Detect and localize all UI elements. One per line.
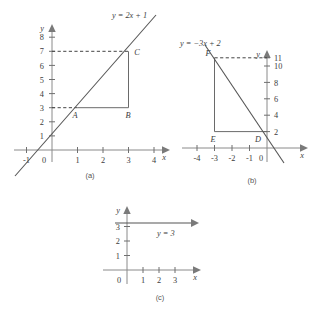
graph-panel-a: x y -1 0 1 2 3 4 1 2 3 bbox=[0, 2, 175, 167]
y-axis-arrow-c bbox=[123, 206, 130, 214]
line-a bbox=[15, 15, 156, 176]
x-tick-label-a-2: 1 bbox=[75, 156, 79, 165]
x-tick-label-a-1: 0 bbox=[42, 156, 46, 165]
x-tick-label-b-4: 0 bbox=[259, 154, 263, 163]
y-tick-label-b-2: 6 bbox=[274, 95, 278, 104]
gradient-triangle-a bbox=[78, 51, 129, 107]
y-tick-label-b-3: 8 bbox=[274, 79, 278, 88]
gradient-triangle-b bbox=[215, 58, 268, 132]
y-axis-label-a: y bbox=[39, 24, 44, 33]
y-tick-label-a-7: 8 bbox=[40, 33, 44, 42]
panel-caption-c: (c) bbox=[140, 293, 180, 302]
point-label-a-B: B bbox=[125, 111, 130, 120]
y-tick-label-b-5: 11 bbox=[274, 54, 282, 63]
y-tick-label-c-0: 1 bbox=[116, 252, 120, 261]
y-axis-label-c: y bbox=[115, 206, 120, 215]
x-tick-label-a-3: 2 bbox=[101, 156, 105, 165]
x-tick-label-c-2: 2 bbox=[157, 276, 161, 285]
y-tick-label-b-4: 10 bbox=[274, 62, 282, 71]
x-tick-label-b-2: -2 bbox=[229, 154, 236, 163]
x-axis-label-c: x bbox=[192, 273, 197, 282]
equation-label-a: y = 2x + 1 bbox=[111, 11, 147, 20]
x-tick-label-b-3: -1 bbox=[246, 154, 253, 163]
point-label-a-C: C bbox=[134, 48, 140, 57]
point-label-a-A: A bbox=[71, 111, 78, 120]
equation-label-c: y = 3 bbox=[156, 229, 175, 238]
graph-panel-c: x y 0 1 2 3 1 2 3 y = 3 bbox=[95, 198, 225, 293]
line-b bbox=[205, 45, 284, 163]
equation-label-b: y = −3x + 2 bbox=[179, 39, 221, 48]
y-axis-arrow-a bbox=[48, 24, 55, 32]
x-axis-label-b: x bbox=[299, 151, 304, 160]
point-label-b-E: E bbox=[209, 135, 215, 144]
x-tick-label-c-1: 1 bbox=[141, 276, 145, 285]
x-tick-label-b-0: -4 bbox=[194, 154, 202, 163]
line-c-arrow bbox=[191, 219, 199, 227]
y-tick-label-a-4: 5 bbox=[40, 76, 44, 85]
y-tick-label-a-3: 4 bbox=[40, 90, 45, 99]
x-tick-label-c-0: 0 bbox=[117, 276, 121, 285]
y-tick-label-a-5: 6 bbox=[40, 62, 44, 71]
y-tick-label-a-1: 2 bbox=[40, 118, 44, 127]
x-tick-label-a-5: 4 bbox=[152, 156, 157, 165]
x-tick-label-b-1: -3 bbox=[211, 154, 218, 163]
x-tick-label-c-3: 3 bbox=[173, 276, 177, 285]
y-tick-label-b-1: 4 bbox=[274, 111, 279, 120]
y-tick-label-a-6: 7 bbox=[40, 47, 44, 56]
panel-caption-a: (a) bbox=[70, 171, 110, 180]
y-tick-label-b-0: 2 bbox=[274, 128, 278, 137]
y-axis-arrow-b bbox=[263, 50, 270, 58]
y-tick-label-a-0: 1 bbox=[40, 132, 44, 141]
y-tick-label-c-2: 3 bbox=[116, 223, 120, 232]
x-axis-label-a: x bbox=[161, 153, 166, 162]
y-ticks-a: 1 2 3 4 5 6 7 8 bbox=[40, 33, 55, 141]
point-label-b-F: F bbox=[204, 49, 211, 58]
y-ticks-c: 1 2 3 bbox=[116, 223, 130, 261]
graph-panel-b: x y -4 -3 -2 -1 0 2 4 6 8 10 11 bbox=[172, 30, 318, 170]
y-tick-label-a-2: 3 bbox=[40, 104, 44, 113]
y-tick-label-c-1: 2 bbox=[116, 237, 120, 246]
point-label-b-D: D bbox=[254, 135, 261, 144]
panel-caption-b: (b) bbox=[232, 176, 272, 185]
x-tick-label-a-4: 3 bbox=[126, 156, 130, 165]
